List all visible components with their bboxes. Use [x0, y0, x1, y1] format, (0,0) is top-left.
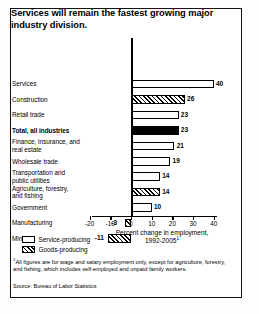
bar-value-label: 19 — [173, 157, 180, 166]
x-axis-tick — [90, 216, 91, 220]
bar-total-all-industries — [131, 126, 179, 135]
category-label: Transportation andpublic utilities — [12, 169, 98, 184]
bar-government — [131, 203, 152, 212]
category-label: Total, all industries — [12, 127, 98, 134]
legend-label-service-producing: Service-producing — [39, 236, 91, 243]
legend-item-service-producing: Service-producing — [22, 236, 90, 244]
x-axis-title-line2: 1992-2005 — [145, 237, 177, 244]
category-label: Retail trade — [12, 111, 98, 118]
category-label: Finance, insurance, andreal estate — [12, 138, 98, 153]
x-axis-tick-label: 20 — [162, 220, 182, 227]
x-axis-tick — [214, 216, 215, 220]
bar-value-label: 10 — [154, 203, 161, 212]
bar-construction — [131, 95, 185, 104]
x-axis-title: Percent change in employment, 1992-20051 — [92, 229, 232, 245]
x-axis-title-line1: Percent change in employment, — [116, 229, 209, 236]
x-axis-tick — [172, 216, 173, 220]
chart-figure: Services will remain the fastest growing… — [0, 0, 259, 314]
chart-footnote: 1All figures are for wage and salary emp… — [13, 259, 229, 272]
x-axis-tick-label: 0 — [121, 220, 141, 227]
category-label: Government — [12, 204, 98, 211]
bar-value-label: 14 — [162, 188, 169, 197]
chart-source: Source: Bureau of Labor Statistics — [13, 283, 213, 290]
legend-item-goods-producing: Goods-producing — [22, 246, 90, 254]
bar-retail-trade — [131, 111, 179, 120]
x-axis-tick-label: 30 — [183, 220, 203, 227]
x-axis-tick — [110, 216, 111, 220]
x-axis-tick-label: -10 — [100, 220, 120, 227]
bar-transportation-and-public-utilities — [131, 172, 160, 181]
x-axis-tick — [152, 216, 153, 220]
footnote-text: All figures are for wage and salary empl… — [13, 259, 225, 272]
bar-value-label: 21 — [177, 142, 184, 151]
legend-swatch-service-producing-icon — [22, 236, 35, 243]
x-axis-tick-label: 40 — [204, 220, 224, 227]
x-axis-tick — [193, 216, 194, 220]
x-axis-footnote-marker: 1 — [176, 236, 179, 241]
zero-axis-line — [131, 38, 133, 216]
category-label: Agriculture, forestry,and fishing — [12, 185, 98, 200]
legend-swatch-goods-producing-icon — [22, 246, 35, 253]
bar-value-label: 26 — [187, 95, 194, 104]
bar-finance-insurance-and-real-estate — [131, 142, 174, 151]
legend-label-goods-producing: Goods-producing — [39, 246, 88, 253]
chart-title: Services will remain the fastest growing… — [11, 8, 217, 31]
bar-value-label: 23 — [181, 111, 188, 120]
x-axis-tick-label: 10 — [142, 220, 162, 227]
bar-wholesale-trade — [131, 157, 170, 166]
bar-value-label: 40 — [216, 80, 223, 89]
category-label: Services — [12, 80, 98, 87]
x-axis-tick — [131, 216, 132, 220]
chart-legend: Service-producing Goods-producing — [22, 236, 90, 255]
bar-agriculture-forestry-and-fishing — [131, 188, 160, 197]
bar-value-label: 23 — [181, 126, 188, 135]
bar-services — [131, 80, 214, 89]
category-label: Wholesale trade — [12, 158, 98, 165]
x-axis-tick-label: -20 — [80, 220, 100, 227]
bar-value-label: 14 — [162, 172, 169, 181]
plot-area: Services40Construction26Retail trade23To… — [0, 38, 232, 224]
category-label: Construction — [12, 96, 98, 103]
